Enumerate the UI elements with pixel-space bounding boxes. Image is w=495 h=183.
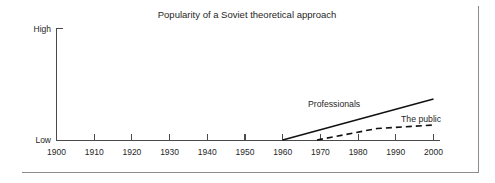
x-axis-tick-labels: 1900 1910 1920 1930 1940 1950 1960 1970 … xyxy=(47,147,443,157)
figure-page: Popularity of a Soviet theoretical appro… xyxy=(0,0,495,183)
x-tick-label-2000: 2000 xyxy=(424,147,443,157)
chart-title: Popularity of a Soviet theoretical appro… xyxy=(158,9,337,20)
x-tick-label-1930: 1930 xyxy=(160,147,179,157)
x-axis-ticks xyxy=(57,134,434,141)
x-tick-label-1970: 1970 xyxy=(311,147,330,157)
series-label-professionals: Professionals xyxy=(308,99,361,109)
x-tick-label-1920: 1920 xyxy=(122,147,141,157)
x-tick-label-1990: 1990 xyxy=(386,147,405,157)
series-label-the-public: The public xyxy=(401,114,442,124)
x-tick-label-1910: 1910 xyxy=(85,147,104,157)
x-tick-label-1900: 1900 xyxy=(47,147,66,157)
x-tick-label-1980: 1980 xyxy=(349,147,368,157)
y-axis-low-label: Low xyxy=(35,135,51,145)
x-tick-label-1950: 1950 xyxy=(236,147,255,157)
series-line-the-public xyxy=(317,125,434,140)
line-chart: Popularity of a Soviet theoretical appro… xyxy=(0,0,495,183)
x-tick-label-1960: 1960 xyxy=(273,147,292,157)
y-axis-high-label: High xyxy=(34,24,52,34)
x-tick-label-1940: 1940 xyxy=(198,147,217,157)
